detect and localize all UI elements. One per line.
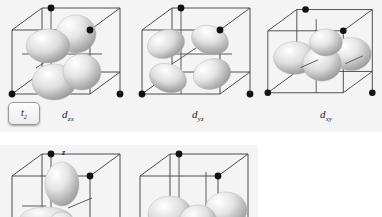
cube-diagram-dzx (6, 2, 130, 108)
cube-diagram-dz2 (6, 148, 130, 217)
symmetry-label-text: t2 (21, 107, 27, 120)
cube-diagram-dx2y2 (134, 148, 258, 217)
orbital-label-dxy: dxy (320, 108, 332, 123)
orbital-label-dxy-sub: xy (326, 115, 333, 123)
orbital-cell-dzx (6, 2, 130, 108)
symmetry-label-sub: 2 (24, 113, 27, 120)
cube-diagram-dyz (136, 2, 260, 108)
orbital-label-dyz: dyz (192, 108, 204, 123)
orbital-lobes-dx2y2 (148, 192, 247, 217)
orbital-lobes-dz2 (20, 162, 79, 217)
orbital-cell-dx2y2 (134, 148, 258, 217)
symmetry-label-badge[interactable]: t2 (8, 102, 40, 125)
orbital-lobes-dxy (274, 29, 372, 81)
orbital-label-dyz-sub: yz (198, 115, 204, 123)
orbital-cell-dyz (136, 2, 260, 108)
orbital-label-dzx: dzx (62, 108, 74, 123)
orbital-cell-dz2 (6, 148, 130, 217)
cube-diagram-dxy (262, 2, 382, 108)
orbital-label-dzx-sub: zx (68, 115, 74, 123)
figure-canvas: dzx (0, 0, 382, 217)
axis-label-z: z (62, 148, 65, 157)
orbital-cell-dxy (262, 2, 382, 108)
